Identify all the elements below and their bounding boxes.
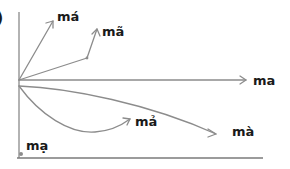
tone-ma-grave-arrow <box>19 86 216 137</box>
label-ma-hook: mả <box>135 115 157 128</box>
tone-ma-tilde-arrow <box>19 29 100 80</box>
tone-ma-dot-point <box>19 152 23 156</box>
tone-ma-level-arrow <box>19 76 246 84</box>
label-ma-grave: mà <box>232 125 254 138</box>
label-ma: ma <box>253 74 275 87</box>
label-ma-tilde: mã <box>102 25 124 38</box>
tone-ma-hook-arrow <box>19 86 130 132</box>
label-ma-dot: mạ <box>26 139 48 152</box>
label-ma-acute: má <box>57 10 79 23</box>
